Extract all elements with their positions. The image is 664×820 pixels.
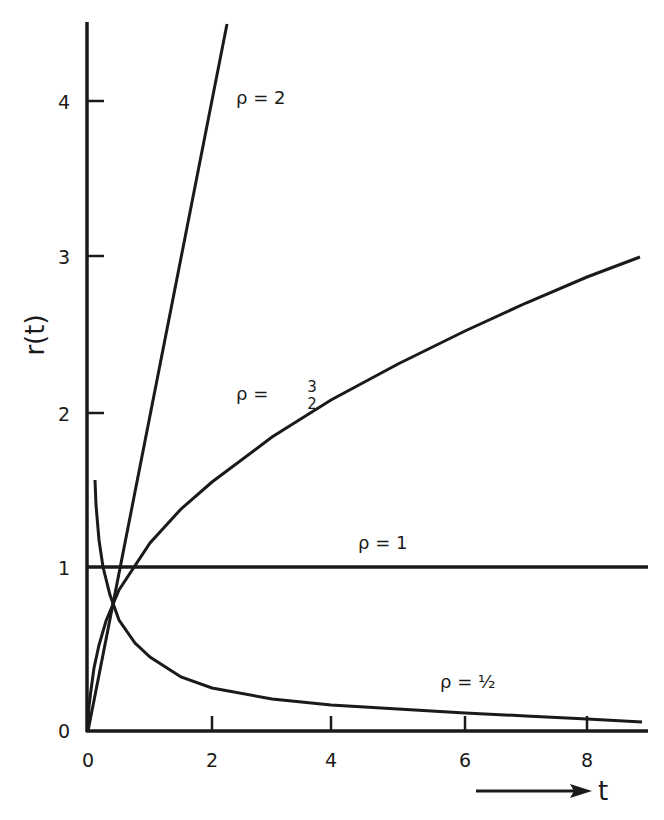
y-tick-3: 3: [58, 246, 70, 268]
y-tick-1: 1: [58, 557, 70, 579]
curve-rho-2: [88, 24, 227, 731]
arrow-right-icon: [476, 784, 592, 798]
x-tick-8: 8: [581, 749, 593, 771]
x-tick-4: 4: [325, 749, 337, 771]
x-tick-0: 0: [82, 749, 94, 771]
y-axis-title: r(t): [20, 314, 50, 355]
x-axis-title: t: [598, 776, 608, 806]
x-tick-2: 2: [206, 749, 218, 771]
y-tick-2: 2: [58, 403, 70, 425]
label-rho-2: ρ = 2: [236, 87, 285, 108]
label-rho-3-2-numerator: 3: [307, 378, 317, 396]
label-rho-3-2-denominator: 2: [307, 395, 317, 413]
y-axis: 0 1 2 3 4 r(t): [20, 22, 104, 742]
curve-rho-1-2: [95, 480, 642, 722]
x-tick-6: 6: [459, 749, 471, 771]
y-tick-4: 4: [58, 91, 70, 113]
y-tick-0: 0: [58, 720, 70, 742]
curve-labels: ρ = 2 ρ = 3 2 ρ = 1 ρ = ½: [236, 87, 495, 692]
curves: [87, 24, 648, 731]
curve-rho-3-2: [88, 257, 640, 731]
x-axis: 0 2 4 6 8 t: [82, 716, 648, 806]
chart: 0 1 2 3 4 r(t) 0 2 4 6 8 t ρ = 2 ρ: [0, 0, 664, 820]
label-rho-1-2: ρ = ½: [440, 671, 495, 692]
label-rho-1: ρ = 1: [358, 532, 407, 553]
label-rho-3-2: ρ =: [236, 383, 268, 404]
